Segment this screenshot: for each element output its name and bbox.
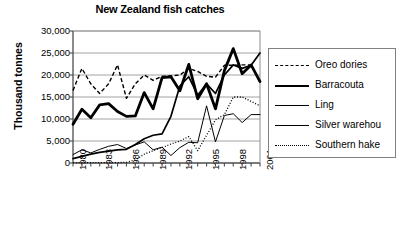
legend-item[interactable]: Silver warehou	[275, 115, 393, 135]
legend-label: Barracouta	[315, 79, 364, 91]
legend-item[interactable]: Oreo dories	[275, 55, 393, 75]
legend-item[interactable]: Barracouta	[275, 75, 393, 95]
series-line	[73, 49, 260, 125]
legend-line-swatch	[275, 119, 309, 131]
legend-line-swatch	[275, 139, 309, 151]
series-line	[73, 106, 260, 156]
legend-item[interactable]: Southern hake	[275, 135, 393, 155]
legend-line-swatch	[275, 99, 309, 111]
chart-figure: New Zealand fish catches Thousand tonnes…	[0, 0, 401, 228]
legend-item[interactable]: Ling	[275, 95, 393, 115]
legend-line-swatch	[275, 79, 309, 91]
legend-label: Ling	[315, 99, 334, 111]
legend-line-swatch	[275, 59, 309, 71]
legend-label: Southern hake	[315, 139, 380, 151]
chart-legend: Oreo doriesBarracoutaLingSilver warehouS…	[268, 48, 396, 158]
legend-label: Oreo dories	[315, 59, 367, 71]
legend-label: Silver warehou	[315, 119, 381, 131]
